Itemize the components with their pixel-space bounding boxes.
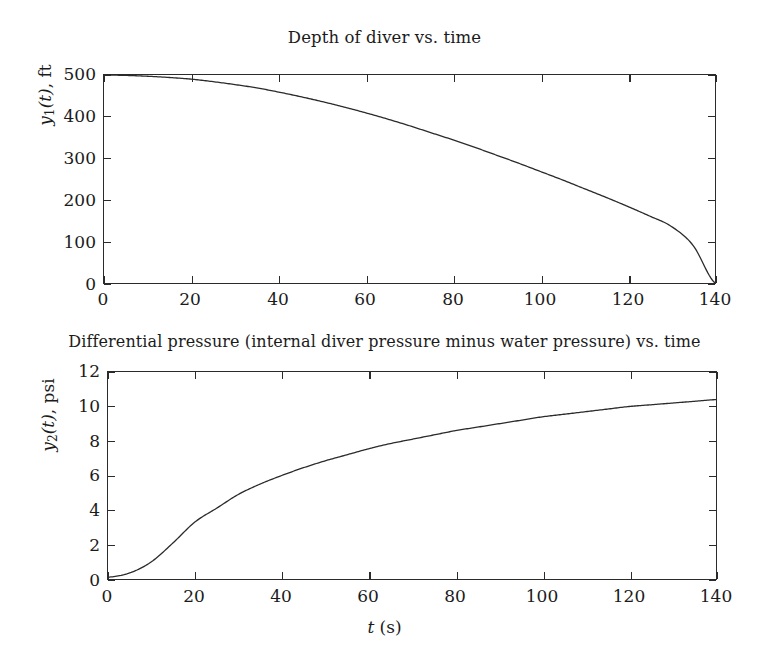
panel2-xtick-0: 0 [82,588,132,605]
panel1-y-axis-label: y1(t), ft [35,35,57,155]
panel2-ytick-mark-right-0 [709,580,716,581]
panel1-xtick-mark-140 [716,276,717,283]
panel-depth-of-diver: Depth of diver vs. time y1(t), ft 0 100 … [0,0,769,320]
panel1-data-curve [104,75,715,283]
panel1-ytick-200: 200 [46,192,96,209]
panel2-xtick-100: 100 [517,588,567,605]
panel-differential-pressure: Differential pressure (internal diver pr… [0,320,769,664]
panel1-xtick-120: 120 [603,291,653,308]
panel2-ytick-6: 6 [55,467,100,484]
figure-two-panel-plot: Depth of diver vs. time y1(t), ft 0 100 … [0,0,769,664]
panel2-x-axis-label: t (s) [0,617,769,637]
panel2-xtick-120: 120 [604,588,654,605]
panel2-xtick-140: 140 [691,588,741,605]
panel1-xtick-80: 80 [428,291,478,308]
panel1-xtick-140: 140 [690,291,740,308]
panel2-xtick-40: 40 [256,588,306,605]
panel2-xtick-mark-top-140 [717,372,718,379]
panel2-data-curve [108,372,716,579]
panel2-ytick-10: 10 [48,398,100,415]
panel1-plot-area [103,74,716,284]
panel1-ytick-300: 300 [46,150,96,167]
panel1-xtick-mark-top-140 [716,75,717,82]
panel2-xtick-mark-140 [717,572,718,579]
panel2-plot-area [107,371,717,580]
panel1-ytick-mark-0 [104,284,111,285]
panel2-xtick-20: 20 [169,588,219,605]
panel1-xtick-60: 60 [340,291,390,308]
panel1-title: Depth of diver vs. time [0,28,769,47]
panel1-ytick-mark-right-0 [708,284,715,285]
panel1-ytick-100: 100 [46,234,96,251]
panel2-ytick-12: 12 [48,363,100,380]
panel2-y-axis-label-arg: (t) [38,414,58,434]
panel2-x-axis-label-unit: (s) [374,617,401,637]
panel1-ytick-400: 400 [46,108,96,125]
panel1-xtick-100: 100 [515,291,565,308]
panel2-title: Differential pressure (internal diver pr… [0,332,769,351]
panel1-xtick-20: 20 [165,291,215,308]
panel2-ytick-0: 0 [55,572,100,589]
panel2-ytick-2: 2 [55,537,100,554]
panel2-xtick-80: 80 [430,588,480,605]
panel1-y-axis-label-arg: (t) [35,88,55,108]
panel2-ytick-4: 4 [55,502,100,519]
panel2-xtick-60: 60 [343,588,393,605]
panel1-xtick-40: 40 [253,291,303,308]
panel2-ytick-8: 8 [55,433,100,450]
panel1-xtick-0: 0 [78,291,128,308]
panel1-ytick-500: 500 [46,66,96,83]
panel2-ytick-mark-0 [108,580,115,581]
